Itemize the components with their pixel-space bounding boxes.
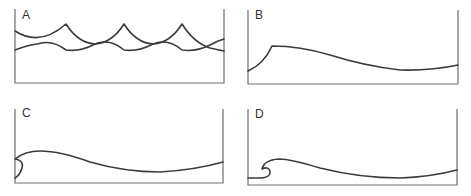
panel-a-label: A: [22, 8, 30, 22]
panel-b: B: [248, 8, 458, 84]
panel-c-frame: [15, 109, 223, 183]
panel-c-curl: [15, 159, 22, 178]
panel-d-wave: [248, 159, 457, 178]
panel-b-wave: [248, 46, 458, 71]
panel-b-frame: [248, 10, 458, 84]
wave-diagram: A B C D: [0, 0, 471, 196]
panel-d-frame: [248, 109, 457, 185]
panel-c-wave: [15, 151, 223, 172]
panel-d: D: [248, 107, 457, 185]
panel-d-label: D: [255, 107, 264, 121]
panel-c: C: [15, 106, 223, 183]
panel-a: A: [15, 8, 224, 83]
panel-a-wave-2: [15, 39, 224, 50]
panel-b-label: B: [255, 8, 263, 22]
panel-c-label: C: [22, 106, 31, 120]
